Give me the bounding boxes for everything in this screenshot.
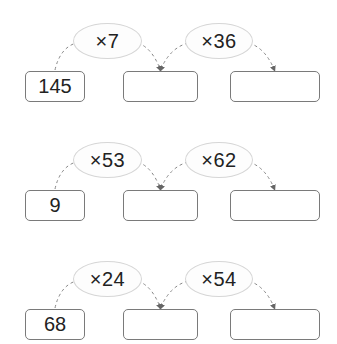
multiplier-oval-2: ×54	[185, 261, 253, 297]
multiplier-oval-1: ×7	[73, 23, 142, 59]
answer-box-1[interactable]	[123, 71, 198, 102]
multiplier-oval-2: ×62	[185, 142, 253, 178]
problem-row-2: ×53 ×62 9	[0, 142, 337, 252]
multiplier-oval-1: ×24	[73, 261, 142, 297]
answer-box-2[interactable]	[230, 71, 320, 102]
answer-box-2[interactable]	[230, 190, 320, 221]
problem-row-3: ×24 ×54 68	[0, 261, 337, 344]
start-value-box: 145	[25, 71, 85, 102]
multiplier-oval-1: ×53	[73, 142, 142, 178]
problem-row-1: ×7 ×36 145	[0, 23, 337, 133]
answer-box-1[interactable]	[123, 190, 198, 221]
multiplier-oval-2: ×36	[185, 23, 253, 59]
answer-box-2[interactable]	[230, 309, 320, 340]
start-value-box: 68	[25, 309, 85, 340]
start-value-box: 9	[25, 190, 85, 221]
answer-box-1[interactable]	[123, 309, 198, 340]
